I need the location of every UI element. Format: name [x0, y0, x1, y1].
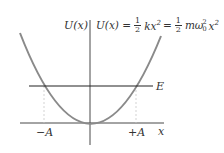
eq-frac-1: 12 [134, 17, 141, 34]
eq-equals: = [163, 20, 172, 31]
eq-term-2: mω20 [185, 19, 207, 32]
eq-term-3: x2 [209, 20, 219, 32]
x-axis-label: x [158, 126, 164, 137]
y-axis-label: U(x) [64, 20, 88, 31]
eq-term-1: kx2 [144, 20, 161, 32]
energy-label: E [156, 81, 164, 92]
potential-equation: U(x) = 12 kx2 = 12 mω20 x2 [96, 17, 219, 34]
eq-lhs: U(x) = [96, 20, 131, 31]
left-turning-label: −A [36, 127, 53, 138]
right-turning-label: +A [128, 127, 145, 138]
potential-curve [20, 33, 161, 124]
eq-frac-2: 12 [175, 17, 182, 34]
